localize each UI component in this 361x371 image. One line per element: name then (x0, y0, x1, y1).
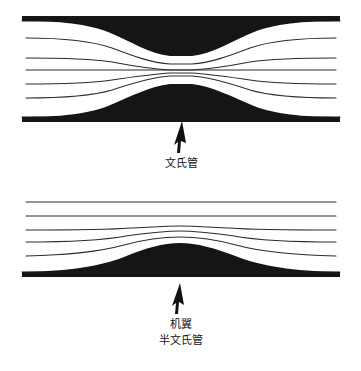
venturi-tube-panel: 文氏管 (22, 16, 340, 170)
airfoil-pointer-arrow (172, 283, 184, 314)
figure-root: 文氏管 机翼 半文氏管 (0, 0, 361, 371)
venturi-pointer-arrow (174, 121, 186, 153)
venturi-label: 文氏管 (165, 156, 198, 170)
fluid-dynamics-figure: 文氏管 机翼 半文氏管 (0, 0, 361, 371)
airfoil-streamline-3 (26, 226, 336, 230)
venturi-bottom-wall-contour (22, 84, 340, 122)
venturi-streamline-4 (26, 73, 336, 84)
venturi-top-wall-contour (22, 16, 340, 56)
airfoil-panel: 机翼 半文氏管 (22, 202, 340, 347)
airfoil-label-line1: 机翼 (170, 317, 192, 331)
airfoil-label-line2: 半文氏管 (159, 333, 203, 347)
